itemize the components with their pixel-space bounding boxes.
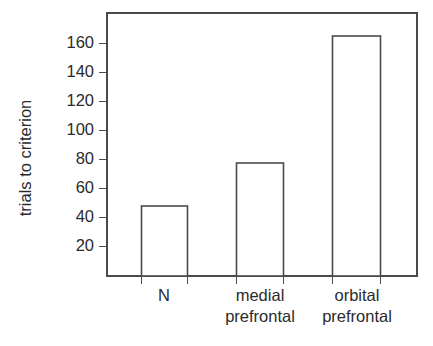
x-label-N: N [158, 286, 170, 304]
bar-series [142, 36, 381, 276]
y-tick-label-40: 40 [76, 207, 94, 225]
y-tick-label-60: 60 [76, 178, 94, 196]
chart-canvas: 20 40 60 80 100 120 140 160 N medi [0, 0, 433, 346]
y-axis-ticks [99, 44, 107, 247]
x-axis-ticks [142, 276, 381, 284]
x-label-medial-line2: prefrontal [225, 307, 295, 325]
y-tick-label-140: 140 [66, 62, 94, 80]
x-label-orbital-line2: prefrontal [322, 307, 392, 325]
bar-N [142, 206, 188, 276]
y-tick-label-20: 20 [76, 236, 94, 254]
y-tick-label-120: 120 [66, 91, 94, 109]
bar-medial-prefrontal [237, 163, 284, 276]
x-axis-labels: N medial prefrontal orbital prefrontal [158, 286, 392, 325]
y-tick-label-80: 80 [76, 149, 94, 167]
y-tick-label-100: 100 [66, 120, 94, 138]
x-label-orbital-line1: orbital [335, 286, 380, 304]
y-tick-label-160: 160 [66, 33, 94, 51]
x-label-medial-line1: medial [236, 286, 285, 304]
bar-orbital-prefrontal [333, 36, 381, 276]
y-axis-title: trials to criterion [16, 100, 34, 216]
bar-chart: 20 40 60 80 100 120 140 160 N medi [0, 0, 433, 346]
y-axis-tick-labels: 20 40 60 80 100 120 140 160 [66, 33, 94, 254]
